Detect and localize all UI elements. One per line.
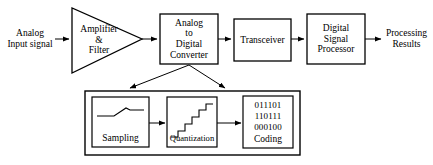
sampling-label: Sampling (92, 133, 149, 144)
quantization-label: Quantization (162, 134, 222, 144)
transceiver-label: Transceiver (234, 19, 291, 61)
coding-bits-line2: 110111 (243, 111, 293, 121)
adc-label-line1: Analog (175, 18, 203, 29)
analog-input-signal-line1: Analog (16, 28, 44, 39)
processing-results-line1: Processing (386, 28, 427, 39)
processing-results-label: Processing Results (380, 26, 433, 52)
arrow-adc-to-sampling-branch (130, 65, 189, 88)
sampling-waveform-icon (97, 108, 144, 116)
diagram-canvas: Analog Input signal Amplifier & Filter A… (0, 0, 433, 165)
transceiver-label-line1: Transceiver (240, 35, 285, 46)
amplifier-label-line3: Filter (89, 45, 110, 56)
arrow-adc-to-coding-branch (189, 65, 225, 88)
amplifier-label-line1: Amplifier (80, 24, 117, 35)
dsp-label-line1: Digital (323, 23, 349, 34)
adc-label: Analog to Digital Converter (160, 15, 218, 63)
processing-results-line2: Results (393, 39, 421, 50)
coding-bits-line3: 000100 (243, 122, 293, 132)
amplifier-filter-label: Amplifier & Filter (76, 24, 122, 56)
adc-label-line3: Digital (176, 39, 202, 50)
dsp-label-line3: Processor (318, 44, 355, 55)
amplifier-label-line2: & (95, 35, 102, 46)
coding-bits-line1: 011101 (243, 100, 293, 110)
analog-input-signal-label: Analog Input signal (4, 26, 56, 52)
adc-label-line4: Converter (170, 50, 208, 61)
analog-input-signal-line2: Input signal (7, 39, 52, 50)
dsp-label-line2: Signal (324, 34, 348, 45)
coding-label: Coding (243, 134, 293, 145)
adc-label-line2: to (185, 28, 192, 39)
dsp-label: Digital Signal Processor (307, 15, 365, 63)
